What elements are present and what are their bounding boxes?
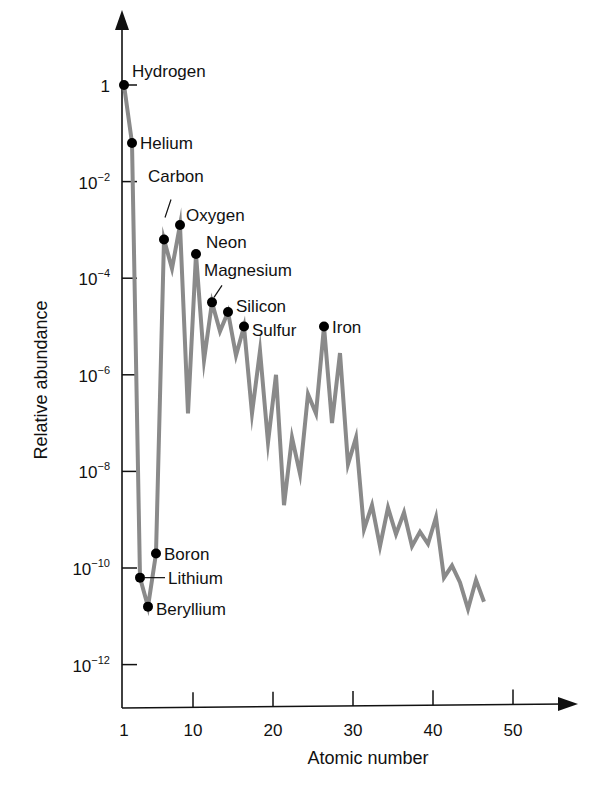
abundance-line [124,85,484,609]
abundance-chart: 110−210−410−610−810−1010−12 11020304050 … [0,0,602,793]
y-tick-label: 10−4 [79,267,110,289]
y-tick-label: 10−2 [79,171,110,193]
label-lithium: Lithium [168,569,223,588]
data-point-lithium [135,573,145,583]
x-tick-label: 1 [119,721,128,740]
x-tick-label: 50 [504,721,523,740]
x-axis [122,704,565,708]
label-oxygen: Oxygen [186,206,245,225]
data-point-magnesium [207,297,217,307]
data-point-neon [191,249,201,259]
data-point-carbon [159,235,169,245]
label-silicon: Silicon [236,297,286,316]
x-axis-title: Atomic number [307,748,428,768]
x-tick-label: 10 [184,721,203,740]
label-beryllium: Beryllium [156,600,226,619]
data-series [124,85,484,609]
label-sulfur: Sulfur [252,321,297,340]
x-tick-label: 20 [264,721,283,740]
y-tick-label: 1 [101,77,110,96]
label-magnesium: Magnesium [204,261,292,280]
data-point-hydrogen [119,80,129,90]
x-tick-label: 30 [344,721,363,740]
y-tick-label: 10−10 [72,557,110,579]
label-carbon: Carbon [148,167,204,186]
label-hydrogen: Hydrogen [132,62,206,81]
data-point-iron [319,322,329,332]
label-boron: Boron [164,545,209,564]
data-point-helium [127,138,137,148]
data-point-beryllium [143,602,153,612]
data-point-sulfur [239,322,249,332]
x-tick-label: 40 [424,721,443,740]
label-iron: Iron [332,318,361,337]
y-tick-label: 10−12 [72,654,110,676]
leader-line [165,200,171,218]
x-ticks: 11020304050 [119,689,522,740]
leader-line [214,285,222,297]
y-tick-label: 10−6 [79,364,110,386]
label-neon: Neon [206,233,247,252]
y-axis-title: Relative abundance [31,300,51,459]
data-point-oxygen [175,220,185,230]
y-tick-label: 10−8 [79,460,110,482]
data-point-boron [151,549,161,559]
y-ticks: 110−210−410−610−810−1010−12 [72,77,137,676]
y-axis-arrow-icon [115,10,129,30]
data-point-silicon [223,307,233,317]
label-helium: Helium [140,134,193,153]
x-axis-arrow-icon [558,697,578,711]
